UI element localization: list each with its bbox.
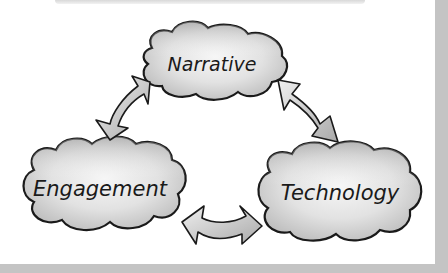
diagram-canvas: Narrative Engagement Technology [0,0,448,273]
node-engagement: Engagement [24,137,186,231]
node-label: Technology [281,181,400,205]
node-label: Engagement [33,177,168,201]
node-technology: Technology [258,141,421,240]
frame-border-bottom [0,264,448,273]
bidirectional-arrow-narrative-engagement [96,76,150,140]
cycle-diagram: Narrative Engagement Technology [0,0,448,273]
node-label: Narrative [168,53,257,75]
bidirectional-arrow-engagement-technology [182,206,262,244]
bidirectional-arrow-narrative-technology [278,80,338,142]
frame-border-right [435,0,448,273]
node-narrative: Narrative [144,22,287,100]
